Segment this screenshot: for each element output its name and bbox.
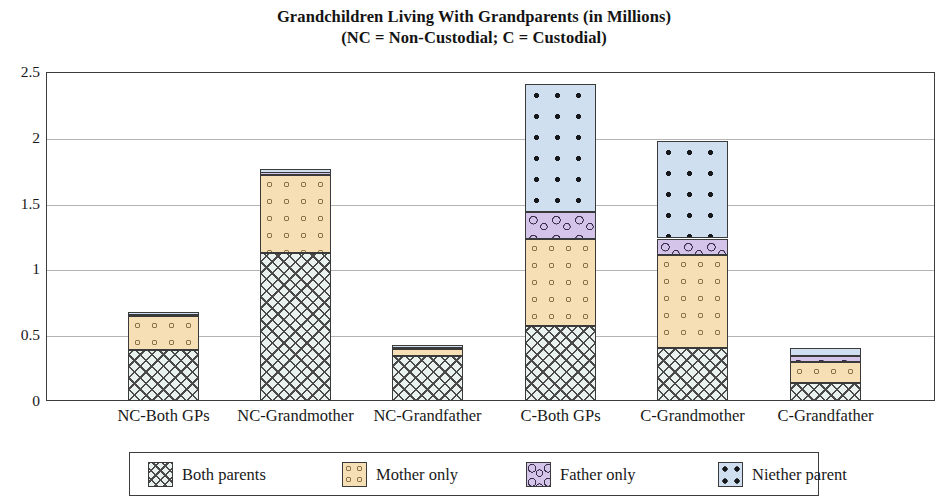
bars-layer	[46, 72, 935, 401]
bar-stack	[392, 347, 463, 401]
chart-title-block: Grandchildren Living With Grandparents (…	[0, 6, 948, 48]
legend-item[interactable]: Mother only	[342, 462, 458, 487]
bar-stack	[657, 141, 728, 401]
bar-segment	[260, 175, 331, 253]
x-axis-labels: NC-Both GPsNC-GrandmotherNC-GrandfatherC…	[46, 405, 935, 431]
y-axis-tick-label: 2	[0, 130, 40, 146]
bar-segment	[128, 350, 199, 401]
bar-segment	[525, 239, 596, 326]
legend-swatch-icon	[718, 462, 743, 487]
y-axis-tick-label: 2.5	[0, 64, 40, 80]
bar-segment	[128, 316, 199, 350]
bar-stack	[790, 348, 861, 401]
bar-segment	[392, 349, 463, 356]
bar-stack	[525, 84, 596, 401]
bar-segment	[525, 212, 596, 239]
bar-segment	[392, 356, 463, 401]
legend-label: Both parents	[182, 462, 266, 487]
bar-segment	[260, 253, 331, 401]
x-axis-tick-label: C-Grandfather	[736, 405, 916, 427]
legend-swatch-icon	[526, 462, 551, 487]
bar-segment	[657, 348, 728, 401]
bar-segment	[657, 255, 728, 348]
y-axis-tick-label: 1	[0, 261, 40, 277]
legend-item[interactable]: Both parents	[148, 462, 266, 487]
bar-segment	[790, 383, 861, 401]
chart-subtitle: (NC = Non-Custodial; C = Custodial)	[0, 27, 948, 48]
chart-legend: Both parentsMother onlyFather onlyNiethe…	[129, 452, 819, 496]
y-axis-tick-label: 0.5	[0, 327, 40, 343]
bar-segment	[525, 326, 596, 401]
bar-segment	[790, 348, 861, 355]
legend-label: Father only	[560, 462, 636, 487]
bar-stack	[260, 169, 331, 401]
chart-title: Grandchildren Living With Grandparents (…	[0, 6, 948, 27]
bar-segment	[525, 84, 596, 212]
legend-item[interactable]: Niether parent	[718, 462, 847, 487]
bar-segment	[790, 362, 861, 384]
bar-segment	[790, 356, 861, 362]
bar-segment	[128, 312, 199, 315]
legend-swatch-icon	[342, 462, 367, 487]
y-axis: 2.521.510.50	[0, 0, 40, 497]
legend-item[interactable]: Father only	[526, 462, 636, 487]
y-axis-tick-label: 1.5	[0, 196, 40, 212]
bar-segment	[260, 169, 331, 173]
bar-segment	[657, 141, 728, 238]
bar-segment	[657, 239, 728, 255]
legend-label: Niether parent	[752, 462, 847, 487]
legend-label: Mother only	[376, 462, 458, 487]
bar-segment	[392, 345, 463, 348]
y-axis-tick-label: 0	[0, 393, 40, 409]
bar-stack	[128, 313, 199, 401]
legend-swatch-icon	[148, 462, 173, 487]
